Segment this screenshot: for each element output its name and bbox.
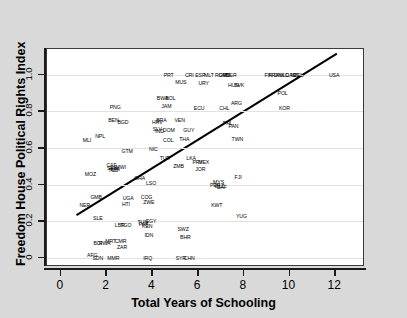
x-tick-mark bbox=[289, 270, 291, 276]
data-point-label: YUG bbox=[236, 213, 247, 219]
data-point-label: MEX bbox=[198, 159, 209, 165]
data-point-label: SLE bbox=[93, 215, 103, 221]
x-tick-label: 6 bbox=[194, 278, 201, 292]
data-point-label: LSO bbox=[146, 180, 156, 186]
data-point-label: CHL bbox=[219, 105, 229, 111]
data-point-label: MWI bbox=[115, 164, 125, 170]
x-tick-mark bbox=[197, 270, 199, 276]
grid-line bbox=[47, 148, 363, 149]
y-tick-mark bbox=[38, 220, 44, 222]
y-tick-mark bbox=[38, 74, 44, 76]
data-point-label: SWZ bbox=[177, 226, 188, 232]
y-tick-mark bbox=[38, 110, 44, 112]
data-point-label: KOR bbox=[279, 105, 290, 111]
data-point-label: BGD bbox=[117, 119, 128, 125]
data-point-label: PAN bbox=[228, 123, 238, 129]
data-point-label: COL bbox=[163, 137, 173, 143]
data-point-label: CHN bbox=[184, 255, 195, 261]
data-point-label: IRQ bbox=[143, 255, 152, 261]
data-point-label: BHR bbox=[180, 234, 191, 240]
data-point-label: GUY bbox=[183, 127, 194, 133]
x-tick-mark bbox=[105, 270, 107, 276]
x-tick-label: 8 bbox=[239, 278, 246, 292]
data-point-label: NIC bbox=[149, 146, 158, 152]
data-point-label: USA bbox=[329, 72, 339, 78]
x-tick-mark bbox=[60, 270, 62, 276]
x-axis-title: Total Years of Schooling bbox=[0, 296, 407, 310]
data-point-label: SVK bbox=[234, 82, 244, 88]
data-point-label: POL bbox=[278, 90, 288, 96]
data-point-label: GMB bbox=[90, 194, 102, 200]
data-point-label: KEN bbox=[142, 223, 152, 229]
data-point-label: NPL bbox=[95, 133, 105, 139]
data-point-label: PRT bbox=[164, 72, 174, 78]
data-point-label: ZWE bbox=[143, 199, 154, 205]
data-point-label: NER bbox=[79, 202, 90, 208]
x-tick-label: 2 bbox=[102, 278, 109, 292]
data-point-label: SDN bbox=[92, 255, 103, 261]
data-point-label: GTM bbox=[121, 148, 132, 154]
y-tick-mark bbox=[38, 257, 44, 259]
y-tick-mark bbox=[38, 184, 44, 186]
data-point-label: ZMB bbox=[173, 163, 184, 169]
data-point-label: BGR bbox=[226, 72, 237, 78]
data-point-label: PNG bbox=[110, 104, 121, 110]
data-point-label: ZAF bbox=[217, 184, 227, 190]
data-point-label: ZAR bbox=[117, 244, 127, 250]
data-point-label: THA bbox=[179, 136, 189, 142]
data-point-label: DOM bbox=[163, 127, 175, 133]
data-point-label: MUS bbox=[175, 79, 186, 85]
data-point-label: MLI bbox=[83, 137, 91, 143]
data-point-label: IDN bbox=[144, 232, 153, 238]
x-tick-label: 0 bbox=[56, 278, 63, 292]
x-tick-label: 4 bbox=[148, 278, 155, 292]
data-point-label: ARG bbox=[231, 100, 242, 106]
x-axis-line bbox=[44, 268, 366, 270]
x-tick-mark bbox=[243, 270, 245, 276]
data-point-label: FJI bbox=[235, 174, 242, 180]
grid-line bbox=[47, 111, 363, 112]
data-point-label: MMR bbox=[107, 255, 119, 261]
data-point-label: BOL bbox=[165, 95, 175, 101]
data-point-label: JAM bbox=[161, 103, 171, 109]
y-tick-mark bbox=[38, 147, 44, 149]
data-point-label: MOZ bbox=[85, 171, 96, 177]
data-point-label: TWN bbox=[232, 136, 244, 142]
data-point-label: KWT bbox=[211, 202, 222, 208]
data-point-label: JOR bbox=[195, 166, 205, 172]
grid-line bbox=[47, 185, 363, 186]
x-tick-label: 12 bbox=[328, 278, 341, 292]
data-point-label: ECU bbox=[194, 105, 205, 111]
data-point-label: CRI bbox=[185, 72, 194, 78]
y-axis-line bbox=[44, 48, 46, 266]
x-tick-mark bbox=[334, 270, 336, 276]
data-point-label: TUR bbox=[160, 155, 170, 161]
data-point-label: GHA bbox=[134, 175, 145, 181]
data-point-label: TGO bbox=[120, 222, 131, 228]
x-tick-mark bbox=[151, 270, 153, 276]
data-point-label: HRV bbox=[152, 119, 163, 125]
data-point-label: URY bbox=[198, 80, 209, 86]
plot-area: MLINPLPNGBENBGDMOZGMBNERSLECAFSENBFATCDM… bbox=[46, 48, 364, 266]
data-point-label: VEN bbox=[175, 117, 185, 123]
data-point-label: MLT bbox=[204, 72, 214, 78]
chart-figure: MLINPLPNGBENBGDMOZGMBNERSLECAFSENBFATCDM… bbox=[0, 0, 407, 318]
data-point-label: HTI bbox=[122, 201, 130, 207]
y-axis-title: Freedom House Political Rights Index bbox=[14, 42, 28, 266]
data-point-label: DEU bbox=[293, 72, 304, 78]
x-tick-label: 10 bbox=[282, 278, 295, 292]
